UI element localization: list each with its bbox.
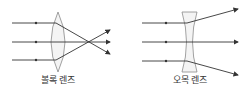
convex-lens-label: 볼록 렌즈	[28, 73, 88, 86]
concave-lens-figure	[142, 9, 238, 75]
convex-lens-figure	[12, 12, 110, 72]
concave-lens-label: 오목 렌즈	[160, 73, 220, 86]
